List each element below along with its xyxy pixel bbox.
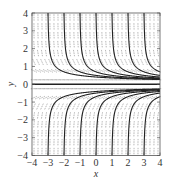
slope-mark [86,121,87,127]
slope-mark [90,121,91,127]
slope-mark [34,121,35,127]
y-tick-label: −3 [17,132,28,143]
slope-mark [153,50,154,56]
x-tick-label: 4 [158,157,163,168]
slope-mark [42,121,43,127]
slope-mark [34,41,35,47]
slope-mark [90,41,91,47]
slope-mark [157,59,160,65]
slope-mark [89,112,90,118]
x-tick-label: 3 [142,157,147,168]
slope-mark [106,41,107,47]
y-tick-label: −1 [17,97,28,108]
slope-mark [73,104,76,110]
slope-mark [138,41,139,47]
slope-mark [69,112,70,118]
slope-mark [141,50,142,56]
slope-mark [105,50,106,56]
slope-mark [109,59,112,65]
slope-mark [105,112,106,118]
slope-mark [89,50,90,56]
slope-mark [113,59,116,65]
slope-mark [126,121,127,127]
slope-mark [54,121,55,127]
slope-mark [93,112,94,118]
slope-mark [42,41,43,47]
slope-mark [141,59,144,65]
slope-mark [158,41,159,47]
slope-mark [105,59,108,65]
slope-mark [109,50,110,56]
slope-mark [73,50,74,56]
slope-mark [153,112,154,118]
slope-mark [89,104,92,110]
slope-mark [137,112,138,118]
slope-mark [137,50,138,56]
slope-mark [137,104,140,110]
slope-mark [125,112,126,118]
slope-mark [109,112,110,118]
slope-mark [94,121,95,127]
slope-mark [137,59,140,65]
slope-mark [150,121,151,127]
slope-mark [41,104,44,110]
slope-mark [133,50,134,56]
slope-mark [62,41,63,47]
slope-mark [142,121,143,127]
slope-mark [97,104,100,110]
slope-mark [141,112,142,118]
x-tick-label: −3 [43,157,54,168]
slope-mark [73,112,74,118]
x-tick-label: −4 [27,157,38,168]
slope-mark [65,59,68,65]
x-axis-label: x [93,168,99,179]
y-tick-label: 4 [23,8,28,19]
y-tick-label: −2 [17,114,28,125]
slope-mark [81,104,84,110]
slope-mark [85,112,86,118]
slope-mark [125,50,126,56]
slope-mark [110,121,111,127]
x-tick-label: 0 [94,157,99,168]
slope-mark [94,41,95,47]
slope-mark [38,41,39,47]
slope-mark [149,112,150,118]
slope-mark [121,59,124,65]
slope-mark [126,41,127,47]
slope-mark [117,50,118,56]
slope-mark [145,104,148,110]
slope-mark [93,59,96,65]
y-tick-label: 0 [23,79,28,90]
slope-mark [41,112,42,118]
slope-mark [85,50,86,56]
slope-mark [74,121,75,127]
slope-mark [142,41,143,47]
slope-mark [106,121,107,127]
slope-mark [41,59,44,65]
slope-mark [57,112,58,118]
slope-mark [53,112,54,118]
slope-mark [74,41,75,47]
solution-curve-lower [80,90,160,156]
slope-mark [105,104,108,110]
slope-mark [46,121,47,127]
slope-mark [118,41,119,47]
slope-mark [77,112,78,118]
slope-mark [125,104,128,110]
slope-mark [77,104,80,110]
y-tick-label: 1 [23,61,28,72]
slope-mark [37,112,38,118]
slope-mark [113,104,116,110]
slope-mark [86,41,87,47]
slope-mark [134,121,135,127]
slope-field-chart: −4−3−2−101234 −4−3−2−101234 x y [0,0,180,182]
slope-mark [61,59,64,65]
solution-curves [32,13,160,156]
x-tick-label: 1 [110,157,115,168]
slope-mark [121,112,122,118]
slope-mark [145,59,148,65]
slope-mark [102,41,103,47]
slope-mark [45,59,48,65]
slope-mark [53,50,54,56]
slope-mark [45,104,48,110]
